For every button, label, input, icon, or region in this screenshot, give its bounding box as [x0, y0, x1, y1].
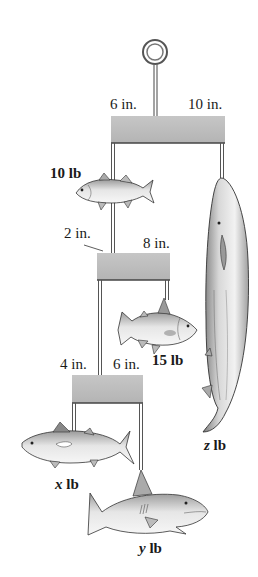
fish-y-shark-icon — [88, 470, 208, 535]
unit-lb-x: lb — [63, 476, 79, 492]
hanging-ring-icon — [143, 40, 167, 116]
middle-bar-right-arm-label: 8 in. — [143, 236, 170, 251]
bottom-bar-right-arm-label: 6 in. — [113, 357, 140, 372]
unit-lb-z: lb — [210, 437, 226, 453]
top-bar-left-arm-label: 6 in. — [110, 97, 137, 112]
fish-15lb-icon — [118, 298, 197, 354]
top-bar-right-string — [221, 143, 224, 178]
bottom-bar-right-string — [140, 403, 143, 470]
variable-x: x — [55, 476, 63, 492]
mobile-diagram — [0, 0, 258, 577]
middle-bar-right-string — [166, 280, 169, 300]
bottom-bar-left-arm-label: 4 in. — [60, 357, 87, 372]
fish-z-long-icon — [202, 178, 249, 432]
middle-bar-left-arm-label: 2 in. — [64, 226, 91, 241]
unit-lb-y: lb — [146, 540, 162, 556]
middle-bar-left-string — [99, 280, 102, 375]
fish-x-tuna-icon — [22, 422, 134, 468]
weight-label-x: x lb — [55, 477, 79, 492]
top-bar — [111, 116, 225, 143]
bottom-bar-left-string — [73, 403, 76, 432]
pointer-line-2in — [84, 245, 103, 251]
bottom-bar — [72, 375, 143, 403]
weight-label-15lb: 15 lb — [152, 353, 183, 368]
middle-bar — [97, 253, 170, 280]
weight-label-y: y lb — [139, 541, 162, 556]
variable-y: y — [139, 540, 146, 556]
top-bar-right-arm-label: 10 in. — [188, 97, 222, 112]
weight-label-z: z lb — [204, 438, 226, 453]
weight-label-10lb: 10 lb — [50, 166, 81, 181]
